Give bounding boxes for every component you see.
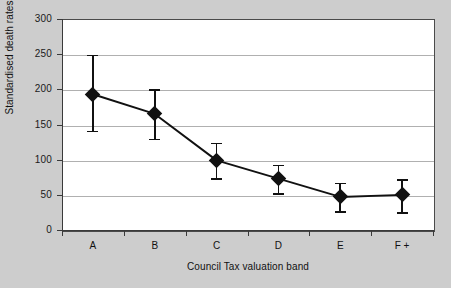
y-axis-tick (57, 160, 62, 161)
x-axis-tick-label: F + (382, 240, 422, 251)
chart-figure: 050100150200250300 Standardised death ra… (0, 0, 451, 288)
y-axis-tick (57, 89, 62, 90)
y-axis-tick (57, 19, 62, 20)
error-bar-cap-lower (87, 131, 98, 133)
y-axis-tick-label: 100 (8, 154, 52, 165)
x-axis-tick (62, 231, 63, 236)
y-axis-line (62, 19, 63, 231)
error-bar-cap-upper (397, 179, 408, 181)
error-bar-cap-upper (211, 143, 222, 145)
x-axis-tick-label: E (320, 240, 360, 251)
x-axis-tick-label: C (197, 240, 237, 251)
gridline (63, 90, 434, 91)
y-axis-tick-label: 150 (8, 119, 52, 130)
y-axis-tick-label: 200 (8, 83, 52, 94)
error-bar-cap-lower (397, 212, 408, 214)
error-bar-cap-lower (211, 178, 222, 180)
error-bar-cap-upper (87, 55, 98, 57)
error-bar-cap-lower (149, 139, 160, 141)
x-axis-tick-label: A (73, 240, 113, 251)
x-axis-tick (124, 231, 125, 236)
plot-area (62, 19, 435, 232)
gridline (63, 126, 434, 127)
x-axis-tick (371, 231, 372, 236)
x-axis-tick-label: B (135, 240, 175, 251)
gridline (63, 55, 434, 56)
x-axis-tick (309, 231, 310, 236)
x-axis-title: Council Tax valuation band (62, 261, 434, 272)
x-axis-tick (248, 231, 249, 236)
gridline (63, 161, 434, 162)
y-axis-tick-label: 50 (8, 189, 52, 200)
error-bar-cap-lower (273, 193, 284, 195)
x-axis-tick (433, 231, 434, 236)
error-bar-cap-upper (335, 183, 346, 185)
error-bar-cap-upper (149, 89, 160, 91)
y-axis-tick (57, 195, 62, 196)
y-axis-tick-label: 300 (8, 13, 52, 24)
y-axis-title: Standardised death rates (4, 0, 15, 123)
y-axis-tick (57, 54, 62, 55)
y-axis-tick (57, 125, 62, 126)
gridline (63, 196, 434, 197)
error-bar-cap-upper (273, 165, 284, 167)
x-axis-tick-label: D (258, 240, 298, 251)
x-axis-tick (186, 231, 187, 236)
error-bar-cap-lower (335, 211, 346, 213)
y-axis-tick-label: 250 (8, 48, 52, 59)
y-axis-tick-label: 0 (8, 224, 52, 235)
